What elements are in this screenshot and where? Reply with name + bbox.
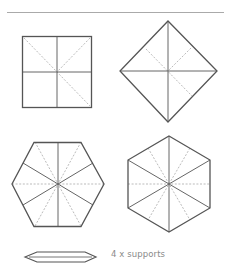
square-shape <box>22 36 92 108</box>
support-shape <box>25 252 96 262</box>
hexagon-flat-top-shape <box>12 142 104 227</box>
hexagon-pointy-top-shape <box>128 136 210 232</box>
diamond-shape <box>120 21 217 122</box>
fold-diagram <box>0 0 227 280</box>
supports-label: 4 x supports <box>111 249 165 259</box>
